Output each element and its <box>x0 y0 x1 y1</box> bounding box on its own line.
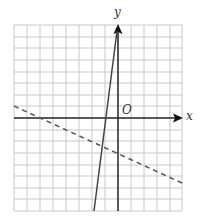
x-axis-label: x <box>186 110 193 122</box>
y-axis-label: y <box>114 6 121 18</box>
origin-label: O <box>122 104 132 116</box>
axes <box>14 32 176 211</box>
coordinate-graph <box>0 0 200 221</box>
